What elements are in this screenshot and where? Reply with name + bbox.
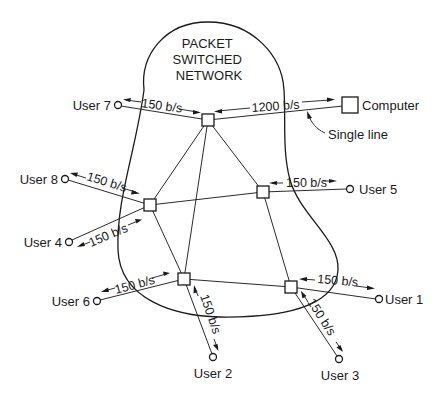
user-label: User 8 [20,172,58,187]
user-label: User 1 [385,292,423,307]
user-8[interactable]: User 8 [20,172,69,187]
network-title: PACKET SWITCHED NETWORK [173,36,246,83]
single-line-label: Single line [328,127,388,142]
user-1[interactable]: User 1 [376,292,424,307]
computer-label: Computer [362,98,420,113]
user-2[interactable]: User 2 [194,354,232,382]
switch-node-bottom-right[interactable] [285,281,297,293]
user-label: User 2 [194,366,232,381]
user-terminal-icon[interactable] [347,186,354,193]
user-terminal-icon[interactable] [336,356,343,363]
user-label: User 6 [52,294,90,309]
user-7[interactable]: User 7 [73,98,122,113]
rate-label-user6: 150 b/s [113,273,156,297]
packet-switched-network-diagram: PACKET SWITCHED NETWORK [0,0,446,398]
switch-node-bottom-left[interactable] [178,273,190,285]
user-terminal-icon[interactable] [94,298,101,305]
single-line-pointer-head [307,111,312,119]
rate-label-user7: 150 b/s [141,96,184,116]
user-terminal-icon[interactable] [376,296,383,303]
rate-label-user8: 150 b/s [85,169,128,194]
user-label: User 5 [359,182,397,197]
user-label: User 7 [73,98,111,113]
rate-label-computer: 1200 b/s [251,98,300,115]
user-4[interactable]: User 4 [24,235,73,250]
switch-node-top[interactable] [202,114,214,126]
user-terminal-icon[interactable] [210,354,217,361]
user-6[interactable]: User 6 [52,294,101,309]
user-terminal-icon[interactable] [66,239,73,246]
switch-node-right[interactable] [257,186,269,198]
computer[interactable]: Computer [342,97,420,113]
rate-label-user5: 150 b/s [286,176,327,190]
trunk-links [150,120,291,287]
user-terminal-icon[interactable] [62,176,69,183]
switch-node-left[interactable] [144,199,156,211]
rate-labels: 150 b/s 1200 b/s 150 b/s 150 b/s 150 b/s… [85,96,359,338]
single-line-pointer [309,116,325,133]
rate-label-user4: 150 b/s [87,221,130,250]
user-5[interactable]: User 5 [347,182,398,197]
rate-label-user3: 150 b/s [304,296,338,338]
computer-icon[interactable] [342,97,358,113]
user-3[interactable]: User 3 [321,356,359,384]
user-label: User 3 [321,368,359,383]
rate-label-user2: 150 b/s [197,292,224,335]
user-terminal-icon[interactable] [115,102,122,109]
user-label: User 4 [24,235,62,250]
rate-label-user1: 150 b/s [317,272,359,290]
